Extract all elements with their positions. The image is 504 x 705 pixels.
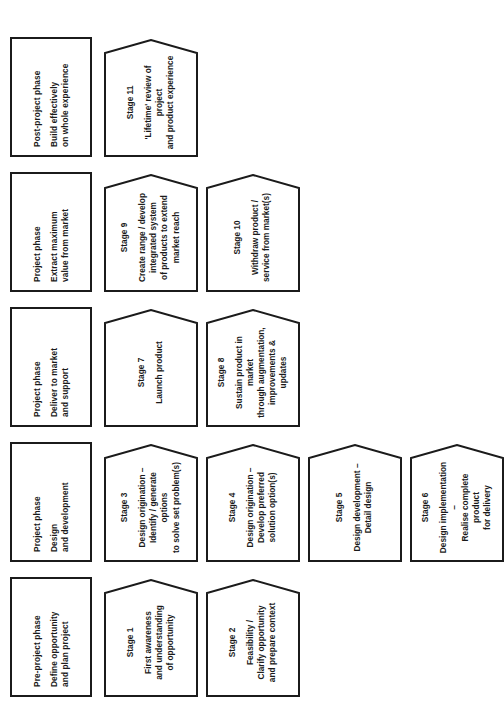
stage-number: Stage 10 — [233, 214, 243, 254]
stage-box-9[interactable]: Stage 9 Create range / develop integrate… — [104, 174, 198, 292]
stage-description: Design implementation – Realise complete… — [438, 453, 493, 556]
phase-title: Design and development — [49, 452, 71, 552]
stage-box-2[interactable]: Stage 2 Feasibility / Clarify opportunit… — [206, 579, 300, 697]
stage-number: Stage 5 — [335, 487, 345, 523]
stage-description: Sustain product in market through augmen… — [234, 318, 289, 421]
phase-column-pre-project: Pre-project phase Define opportunity and… — [0, 575, 421, 697]
stage-box-1[interactable]: Stage 1 First awareness and understandin… — [104, 579, 198, 697]
phase-kicker: Project phase — [32, 317, 42, 417]
stage-description: Design development – Detail design — [352, 457, 374, 551]
stage-number: Stage 7 — [137, 352, 147, 388]
phase-header-design-and-development: Project phase Design and development — [10, 442, 92, 562]
phase-title: Deliver to market and support — [49, 317, 71, 417]
stage-description: Feasibility / Clarify opportunity and pr… — [245, 597, 278, 682]
stage-number: Stage 2 — [228, 622, 238, 658]
phase-header-pre-project: Pre-project phase Define opportunity and… — [10, 577, 92, 697]
phase-kicker: Post-project phase — [32, 47, 42, 147]
phase-column-extract-value: Project phase Extract maximum value from… — [0, 170, 421, 292]
stage-description: 'Lifetime' review of project and product… — [143, 48, 176, 151]
phase-kicker: Pre-project phase — [32, 587, 42, 687]
phase-title: Build effectively on whole experience — [49, 47, 71, 147]
stage-description: Design origination – Identify / generate… — [137, 453, 181, 556]
phase-title: Extract maximum value from market — [49, 182, 71, 282]
phase-kicker: Project phase — [32, 182, 42, 282]
phase-header-post-project: Post-project phase Build effectively on … — [10, 37, 92, 157]
phase-column-deliver-to-market: Project phase Deliver to market and supp… — [0, 305, 421, 427]
stage-number: Stage 6 — [421, 487, 431, 523]
stage-box-6[interactable]: Stage 6 Design implementation – Realise … — [410, 444, 504, 562]
stage-box-8[interactable]: Stage 8 Sustain product in market throug… — [206, 309, 300, 427]
phase-header-deliver-to-market: Project phase Deliver to market and supp… — [10, 307, 92, 427]
stage-description: First awareness and understanding of opp… — [143, 599, 176, 680]
stage-number: Stage 11 — [126, 80, 136, 120]
stage-box-11[interactable]: Stage 11 'Lifetime' review of project an… — [104, 39, 198, 157]
stage-box-3[interactable]: Stage 3 Design origination – Identify / … — [104, 444, 198, 562]
stage-box-7[interactable]: Stage 7 Launch product — [104, 309, 198, 427]
stage-box-4[interactable]: Stage 4 Design origination – Develop pre… — [206, 444, 300, 562]
phase-column-post-project: Post-project phase Build effectively on … — [0, 35, 421, 157]
phase-column-design-and-development: Project phase Design and development Sta… — [0, 440, 421, 562]
phase-title: Define opportunity and plan project — [49, 587, 71, 687]
stage-number: Stage 9 — [120, 217, 130, 253]
stage-number: Stage 4 — [228, 487, 238, 523]
stage-description: Create range / develop integrated system… — [137, 187, 181, 282]
stage-number: Stage 1 — [126, 622, 136, 658]
stage-description: Design origination – Develop preferred s… — [245, 462, 278, 548]
stage-number: Stage 8 — [217, 352, 227, 388]
phase-header-extract-value: Project phase Extract maximum value from… — [10, 172, 92, 292]
phase-kicker: Project phase — [32, 452, 42, 552]
stage-number: Stage 3 — [120, 487, 130, 523]
stage-description: Withdraw product / service from market(s… — [250, 187, 272, 282]
stage-description: Launch product — [154, 335, 165, 404]
stage-box-10[interactable]: Stage 10 Withdraw product / service from… — [206, 174, 300, 292]
chevron-shape-icon — [104, 309, 198, 427]
stage-box-5[interactable]: Stage 5 Design development – Detail desi… — [308, 444, 402, 562]
